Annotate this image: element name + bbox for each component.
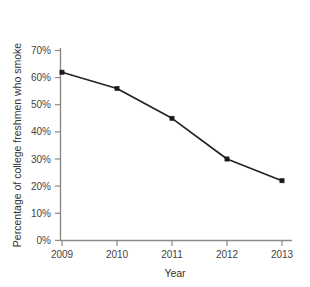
y-axis-ticks: 70% 60% 50% 40% 30% 20% 10% 0%	[31, 45, 61, 246]
data-point-2013	[280, 179, 284, 183]
x-tick-label-2010: 2010	[106, 249, 129, 260]
data-markers	[60, 70, 284, 183]
y-tick-label-10: 10%	[31, 208, 51, 219]
data-point-2009	[60, 70, 64, 74]
y-tick-label-70: 70%	[31, 45, 51, 56]
x-tick-label-2011: 2011	[161, 249, 183, 260]
x-axis-ticks: 2009 2010 2011 2012 2013	[51, 241, 294, 261]
x-axis-title: Year	[164, 267, 186, 279]
y-tick-label-40: 40%	[31, 126, 51, 137]
y-axis-title: Percentage of college freshmen who smoke	[11, 43, 23, 247]
chart-figure: Percentage of college freshmen who smoke…	[0, 0, 310, 287]
x-tick-label-2012: 2012	[216, 249, 239, 260]
data-point-2011	[170, 116, 174, 120]
x-tick-label-2013: 2013	[271, 249, 294, 260]
y-tick-label-50: 50%	[31, 99, 51, 110]
data-point-2012	[225, 157, 229, 161]
data-line-smoking-percentage	[62, 72, 282, 181]
data-point-2010	[115, 86, 119, 90]
x-tick-label-2009: 2009	[51, 249, 74, 260]
y-tick-label-30: 30%	[31, 154, 51, 165]
y-tick-label-20: 20%	[31, 181, 51, 192]
y-tick-label-60: 60%	[31, 72, 51, 83]
line-chart: Percentage of college freshmen who smoke…	[0, 0, 310, 287]
y-tick-label-0: 0%	[37, 235, 52, 246]
